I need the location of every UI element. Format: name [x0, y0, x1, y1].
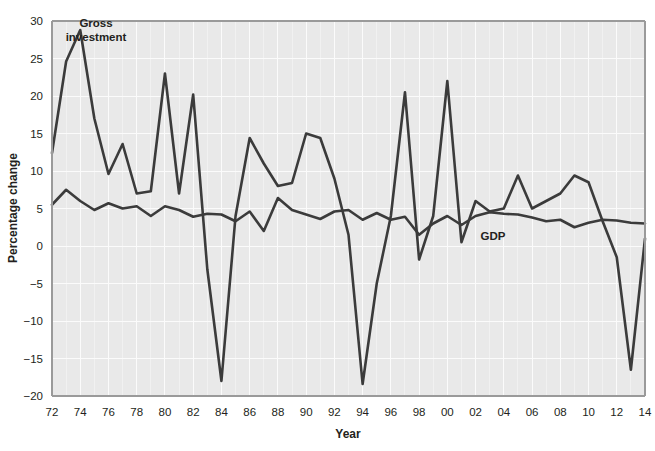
x-axis-title: Year — [335, 427, 361, 441]
y-tick-label: 15 — [30, 128, 43, 140]
x-tick-label: 06 — [526, 406, 539, 418]
y-tick-label: −5 — [30, 278, 43, 290]
x-tick-label: 88 — [272, 406, 285, 418]
series-annotation-gdp: GDP — [481, 230, 506, 242]
x-tick-label: 82 — [187, 406, 200, 418]
x-tick-label: 10 — [582, 406, 595, 418]
x-tick-label: 86 — [243, 406, 256, 418]
x-tick-label: 74 — [74, 406, 87, 418]
x-tick-label: 96 — [384, 406, 397, 418]
x-tick-label: 04 — [497, 406, 510, 418]
y-axis-title: Percentage change — [6, 153, 20, 263]
x-tick-label: 02 — [469, 406, 482, 418]
y-tick-label: 20 — [30, 90, 43, 102]
y-tick-label: −10 — [23, 315, 43, 327]
y-tick-label: 0 — [37, 240, 43, 252]
x-tick-label: 72 — [46, 406, 59, 418]
x-tick-label: 78 — [130, 406, 143, 418]
x-tick-label: 14 — [639, 406, 652, 418]
x-tick-label: 76 — [102, 406, 115, 418]
x-tick-label: 94 — [356, 406, 369, 418]
x-tick-label: 90 — [300, 406, 313, 418]
annotation-line: Gross — [79, 17, 112, 29]
annotation-line: investment — [66, 31, 127, 43]
chart-container: 302520151050−5−10−15−20 7274767880828486… — [0, 0, 655, 451]
x-tick-label: 08 — [554, 406, 567, 418]
y-tick-label: −15 — [23, 353, 43, 365]
y-tick-label: 25 — [30, 53, 43, 65]
y-tick-label: 30 — [30, 15, 43, 27]
percentage-change-line-chart: 302520151050−5−10−15−20 7274767880828486… — [0, 0, 655, 451]
x-tick-label: 80 — [159, 406, 172, 418]
annotation-line: GDP — [481, 230, 506, 242]
x-tick-label: 98 — [413, 406, 426, 418]
x-tick-label: 84 — [215, 406, 228, 418]
x-tick-label: 92 — [328, 406, 341, 418]
y-tick-label: 5 — [37, 203, 43, 215]
y-tick-label: 10 — [30, 165, 43, 177]
y-tick-label: −20 — [23, 390, 43, 402]
x-tick-label: 00 — [441, 406, 454, 418]
x-tick-label: 12 — [610, 406, 623, 418]
